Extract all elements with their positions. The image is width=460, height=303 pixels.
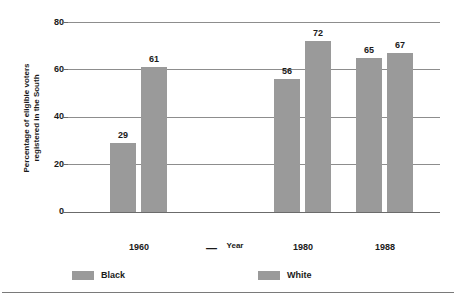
y-tick-mark-0	[62, 212, 68, 213]
y-axis-title: Percentage of eligible voters registered…	[22, 18, 42, 218]
bar-1960-black	[110, 143, 136, 212]
legend-label-black: Black	[101, 270, 125, 280]
y-tick-label-20: 20	[44, 159, 64, 169]
y-axis-title-line-1: Percentage of eligible voters	[22, 18, 32, 218]
gridline-60	[68, 69, 440, 70]
legend-item-white: White	[258, 268, 312, 282]
y-tick-label-80: 80	[44, 17, 64, 27]
y-tick-mark-60	[62, 69, 68, 70]
bar-1980-white	[305, 41, 331, 212]
y-tick-label-60: 60	[44, 64, 64, 74]
bar-value-1980-black: 56	[271, 66, 303, 76]
bar-value-1980-white: 72	[302, 28, 334, 38]
legend-item-black: Black	[72, 268, 125, 282]
y-tick-label-0: 0	[44, 206, 64, 216]
legend-swatch-white-icon	[258, 271, 280, 280]
x-tick-label-1980: 1980	[282, 242, 324, 252]
bar-value-1988-black: 65	[353, 45, 385, 55]
y-tick-mark-20	[62, 164, 68, 165]
bar-value-1960-black: 29	[107, 130, 139, 140]
bar-1980-black	[274, 79, 300, 212]
bar-value-1988-white: 67	[384, 40, 416, 50]
gridline-40	[68, 117, 440, 118]
bar-value-1960-white: 61	[138, 54, 170, 64]
legend-label-white: White	[287, 270, 312, 280]
y-axis-title-line-2: registered in the South	[32, 18, 42, 218]
y-tick-mark-40	[62, 117, 68, 118]
bar-1988-black	[356, 58, 382, 212]
bar-1960-white	[141, 67, 167, 212]
x-tick-label-1960: 1960	[118, 242, 160, 252]
y-tick-label-40: 40	[44, 111, 64, 121]
gridline-80	[68, 22, 440, 23]
x-axis-title: Year	[185, 241, 285, 250]
bar-chart-figure: Percentage of eligible voters registered…	[0, 0, 460, 303]
x-tick-label-1988: 1988	[364, 242, 406, 252]
bar-1988-white	[387, 53, 413, 212]
y-tick-mark-80	[62, 22, 68, 23]
chart-legend: Black White	[0, 268, 460, 284]
x-axis-line	[68, 212, 440, 213]
legend-swatch-black-icon	[72, 271, 94, 280]
bottom-divider	[2, 292, 454, 293]
plot-area: 29 61 56 72 65 67 1960 — 1980 1988	[68, 22, 440, 212]
